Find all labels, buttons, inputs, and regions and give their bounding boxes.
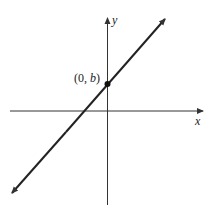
- y-axis-label: y: [111, 13, 118, 27]
- graph-svg: (0, b) y x: [0, 0, 213, 216]
- point-label: (0, b): [74, 71, 100, 85]
- graph-line-lower: [12, 132, 66, 193]
- x-axis-label: x: [194, 114, 201, 128]
- diagram: (0, b) y x: [0, 0, 213, 216]
- y-intercept-point: [105, 81, 111, 87]
